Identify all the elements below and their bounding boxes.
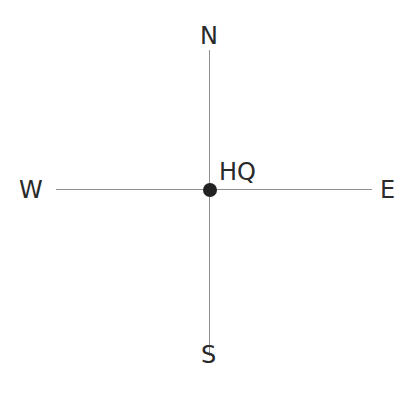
hq-label: HQ <box>219 160 256 184</box>
east-label: E <box>380 178 395 202</box>
north-south-axis <box>209 50 210 356</box>
hq-marker-icon <box>203 183 217 197</box>
south-label: S <box>201 343 216 367</box>
compass-diagram: N S W E HQ <box>0 0 416 406</box>
west-label: W <box>19 178 43 202</box>
north-label: N <box>200 24 218 48</box>
